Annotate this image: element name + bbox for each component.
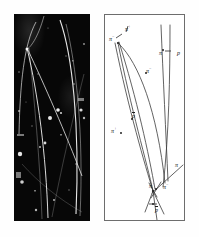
label-pi-plus-upper-right: π+ <box>159 50 165 56</box>
label-pi-vertex-left: π+ <box>149 183 155 189</box>
label-pi-vertex-right: π− <box>163 184 169 190</box>
point-beam-marker <box>152 203 154 205</box>
track-pion-minus-a <box>118 43 153 191</box>
label-antiproton-mid: p <box>132 113 135 119</box>
label-pi-minus-mid: π− <box>146 68 152 74</box>
label-antiproton-beam: p <box>155 207 158 213</box>
track-vertex-stub-left <box>145 191 153 212</box>
label-proton-right: p <box>177 50 180 56</box>
label-pi-plus-lower-left: π+ <box>111 128 117 134</box>
point-vertex-marker <box>155 188 157 190</box>
point-pi-plus-lower <box>120 132 122 134</box>
bubble-chamber-photograph <box>14 14 90 221</box>
particle-track-figure: π− π+ π+ p π− p π+ π π+ π− p <box>0 0 199 237</box>
point-secondary-vertex <box>117 42 119 44</box>
diagram-tracks <box>105 15 184 220</box>
track-line-diagram: π− π+ π+ p π− p π+ π π+ π− p <box>104 14 185 221</box>
point-primary-vertex <box>152 190 154 192</box>
label-pi-minus-top-left: π− <box>109 36 115 42</box>
label-pi-right-edge: π <box>175 162 178 168</box>
track-pion-plus-b <box>119 42 155 189</box>
tick-top-left <box>116 34 122 38</box>
photo-tracks <box>14 14 90 221</box>
label-pi-plus-top: π+ <box>125 26 131 32</box>
